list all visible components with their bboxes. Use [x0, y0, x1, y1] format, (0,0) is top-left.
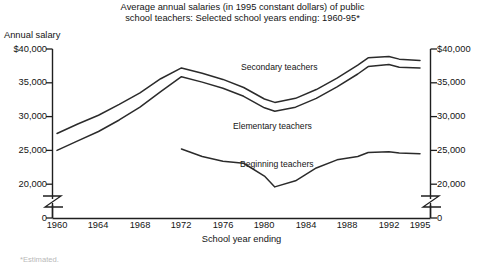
data-line-elementary-teachers [57, 65, 420, 151]
y-axis-right-ticks [431, 49, 438, 218]
y-axis-left-ticks [46, 49, 53, 218]
plot-area [0, 0, 483, 263]
chart-figure: Average annual salaries (in 1995 constan… [0, 0, 483, 263]
data-line-beginning-teachers [181, 149, 420, 187]
